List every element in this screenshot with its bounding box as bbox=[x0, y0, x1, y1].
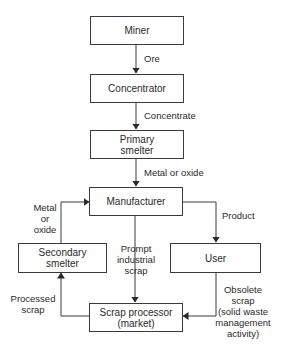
node-user: User bbox=[170, 243, 261, 273]
arrow-obsolete-scrap bbox=[183, 272, 216, 316]
label-obsolete-scrap: Obsolete scrap (solid waste management a… bbox=[214, 284, 272, 339]
arrow-secondary-metal bbox=[61, 202, 89, 243]
label-secondary-metal-or-oxide: Metal or oxide bbox=[32, 202, 58, 235]
node-manufacturer: Manufacturer bbox=[89, 187, 183, 216]
node-concentrator: Concentrator bbox=[90, 74, 184, 103]
node-secondary-smelter: Secondary smelter bbox=[18, 243, 107, 273]
label-concentrate: Concentrate bbox=[144, 110, 196, 121]
label-prompt-industrial-scrap: Prompt industrial scrap bbox=[112, 243, 160, 276]
arrow-processed-scrap bbox=[61, 273, 89, 316]
label-product: Product bbox=[222, 210, 255, 221]
material-flow-diagram: Miner Concentrator Primary smelter Manuf… bbox=[0, 0, 282, 358]
node-scrap-processor: Scrap processor (market) bbox=[89, 303, 183, 332]
label-metal-or-oxide: Metal or oxide bbox=[144, 167, 204, 178]
node-primary-smelter: Primary smelter bbox=[90, 130, 184, 159]
label-ore: Ore bbox=[144, 53, 160, 64]
label-processed-scrap: Processed scrap bbox=[8, 293, 58, 315]
arrow-product bbox=[183, 202, 216, 242]
node-miner: Miner bbox=[90, 16, 184, 45]
